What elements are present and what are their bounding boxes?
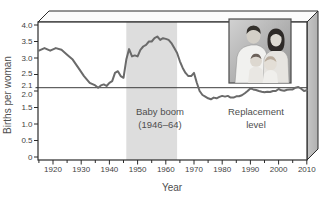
- x-axis-title: Year: [162, 182, 183, 193]
- baby-boom-band: [126, 22, 177, 160]
- fertility-rate-figure: 1920193019401950196019701980199020002010…: [0, 0, 325, 201]
- x-tick-label: 1970: [185, 165, 203, 174]
- x-tick-label: 1960: [157, 165, 175, 174]
- replacement-level-label: Replacement: [228, 106, 284, 117]
- x-tick-label: 1950: [129, 165, 147, 174]
- y-tick-label: 0: [28, 153, 33, 162]
- x-tick-label: 2000: [270, 165, 288, 174]
- x-tick-label: 2010: [298, 165, 316, 174]
- replacement-level-label-line2: level: [246, 119, 266, 130]
- y-tick-label: 1.5: [21, 103, 33, 112]
- x-tick-label: 1940: [101, 165, 119, 174]
- y-tick-label: 1.0: [21, 120, 33, 129]
- y-tick-label: 2.1: [21, 81, 33, 90]
- y-tick-label: 2.5: [21, 69, 33, 78]
- baby-boom-years-label: (1946–64): [138, 119, 181, 130]
- y-axis-tick-labels: 4.03.53.02.52.12.01.51.00.50: [21, 21, 33, 162]
- y-tick-label: 0.5: [21, 136, 33, 145]
- y-tick-label: 4.0: [21, 21, 33, 30]
- y-axis-title: Births per woman: [2, 56, 13, 134]
- y-tick-label: 3.0: [21, 54, 33, 63]
- y-tick-label: 3.5: [21, 37, 33, 46]
- y-tick-label: 2.0: [21, 90, 33, 99]
- x-axis-tick-labels: 1920193019401950196019701980199020002010: [44, 165, 316, 174]
- family-photo: [229, 19, 291, 83]
- x-axis-ticks: [39, 160, 307, 165]
- baby-boom-label: Baby boom: [136, 106, 184, 117]
- box-right-face: [307, 11, 318, 160]
- x-tick-label: 1980: [213, 165, 231, 174]
- x-tick-label: 1920: [44, 165, 62, 174]
- chart-canvas: 1920193019401950196019701980199020002010…: [0, 0, 325, 201]
- x-tick-label: 1930: [72, 165, 90, 174]
- x-tick-label: 1990: [242, 165, 260, 174]
